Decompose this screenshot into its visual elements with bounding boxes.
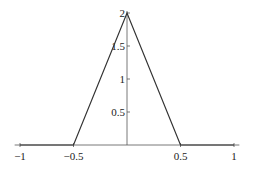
tick-labels: −1−0.50.510.511.52 (14, 7, 237, 162)
x-tick-label: 1 (231, 150, 237, 162)
x-tick-label: 0.5 (174, 150, 188, 162)
triangle-function-chart: −1−0.50.510.511.52 (0, 0, 257, 171)
axes (15, 11, 240, 145)
y-tick-label: 1 (120, 73, 126, 85)
x-tick-label: −0.5 (64, 150, 84, 162)
y-tick-label: 0.5 (111, 106, 125, 118)
x-tick-label: −1 (14, 150, 26, 162)
y-tick-label: 2 (120, 7, 126, 19)
